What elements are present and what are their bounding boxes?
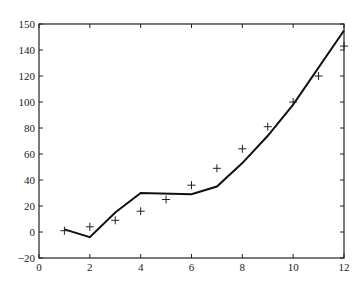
plot-frame xyxy=(39,24,344,258)
y-tick-label: −20 xyxy=(18,252,36,264)
data-point-marker xyxy=(340,42,348,50)
x-tick-label: 4 xyxy=(138,261,144,273)
x-tick-label: 6 xyxy=(189,261,195,273)
y-tick-label: 80 xyxy=(24,122,36,134)
data-point-marker xyxy=(86,223,94,231)
data-point-marker xyxy=(111,216,119,224)
y-tick-label: 120 xyxy=(19,70,36,82)
data-point-marker xyxy=(213,164,221,172)
y-tick-label: 60 xyxy=(24,148,36,160)
y-tick-label: 150 xyxy=(19,18,36,30)
data-point-marker xyxy=(264,123,272,131)
x-tick-label: 0 xyxy=(36,261,42,273)
x-tick-label: 8 xyxy=(240,261,246,273)
plot-series xyxy=(60,31,348,238)
line-chart: 024681012150140120100806040200−20 xyxy=(0,0,363,287)
y-tick-label: 0 xyxy=(30,226,36,238)
x-tick-label: 10 xyxy=(288,261,300,273)
fitted-line xyxy=(64,31,344,238)
y-tick-label: 40 xyxy=(24,174,36,186)
data-point-marker xyxy=(162,196,170,204)
x-tick-label: 12 xyxy=(339,261,350,273)
x-tick-label: 2 xyxy=(87,261,93,273)
data-point-marker xyxy=(60,227,68,235)
y-tick-label: 140 xyxy=(19,44,36,56)
data-point-marker xyxy=(137,207,145,215)
y-tick-label: 20 xyxy=(24,200,36,212)
data-point-marker xyxy=(238,145,246,153)
plot-axes: 024681012150140120100806040200−20 xyxy=(18,18,350,273)
y-tick-label: 100 xyxy=(19,96,36,108)
data-point-marker xyxy=(188,181,196,189)
